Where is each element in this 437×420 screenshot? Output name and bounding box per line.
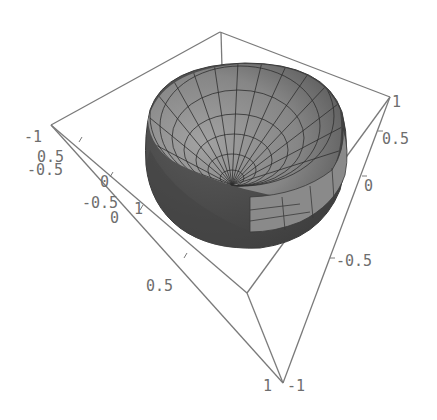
box-edge-inner-bottom: [247, 293, 283, 383]
sphere-3d-plot: -1 0.5 -0.5 0 -0.5 1 0 1 0.5 0 -0.5 0.5 …: [0, 0, 437, 420]
tick-label: 0: [100, 173, 109, 191]
tick-label: 1: [263, 377, 272, 395]
tick-label: 0: [110, 209, 119, 227]
tick-label: 1: [392, 93, 401, 111]
tick-label: 1: [134, 200, 143, 218]
tick-label: 0: [364, 177, 373, 195]
tick-label: -0.5: [336, 252, 372, 270]
tick-label: -1: [24, 128, 42, 146]
tick-label: 0.5: [146, 277, 173, 295]
sphere-surface: [140, 46, 350, 248]
box-edge-top-vertical: [221, 32, 222, 68]
tick-label: -1: [287, 377, 305, 395]
tick-label: -0.5: [27, 161, 63, 179]
tick-label: 0.5: [382, 130, 409, 148]
